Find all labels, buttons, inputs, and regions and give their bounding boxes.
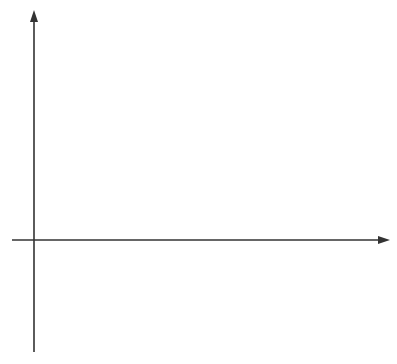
x-axis-arrow-icon <box>378 236 390 244</box>
axes <box>12 10 390 352</box>
y-axis-arrow-icon <box>30 10 38 22</box>
graph <box>0 0 397 364</box>
